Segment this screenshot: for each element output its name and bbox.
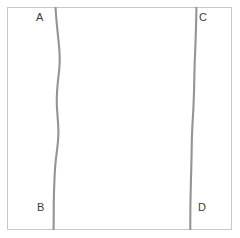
right-curve bbox=[190, 7, 196, 230]
label-b: B bbox=[37, 202, 45, 213]
label-a: A bbox=[36, 12, 44, 23]
label-d: D bbox=[198, 202, 206, 213]
label-c: C bbox=[199, 12, 207, 23]
left-curve bbox=[54, 7, 60, 230]
